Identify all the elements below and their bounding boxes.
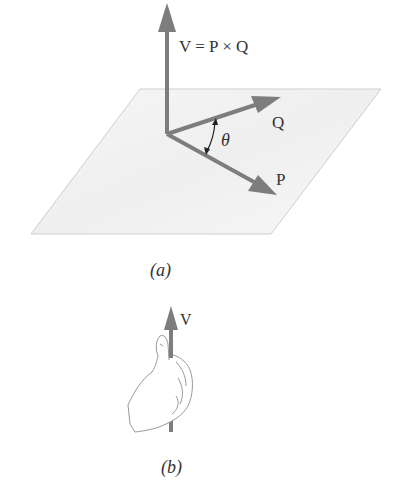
vector-v-label-b: V bbox=[180, 311, 192, 328]
vector-q-label: Q bbox=[272, 113, 284, 132]
right-hand-icon bbox=[128, 335, 192, 432]
plane bbox=[31, 89, 381, 234]
caption-a: (a) bbox=[150, 260, 171, 281]
vector-p-label: P bbox=[276, 170, 285, 189]
part-a: V = P × Q Q P θ (a) bbox=[31, 3, 381, 281]
caption-b: (b) bbox=[161, 457, 182, 478]
vector-v-label: V = P × Q bbox=[179, 37, 248, 56]
angle-label: θ bbox=[221, 130, 230, 150]
cross-product-diagram: V = P × Q Q P θ (a) V (b) bbox=[0, 0, 403, 492]
part-b: V (b) bbox=[128, 306, 192, 478]
